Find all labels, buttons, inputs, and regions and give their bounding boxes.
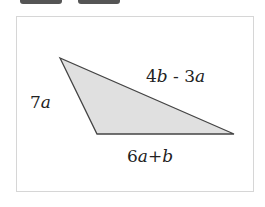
side-label-bottom: 6a+b	[127, 146, 173, 166]
side-label-left: 7a	[30, 92, 51, 112]
side-label-top: 4b - 3a	[146, 66, 205, 86]
triangle-diagram: 7a 4b - 3a 6a+b	[0, 0, 265, 207]
